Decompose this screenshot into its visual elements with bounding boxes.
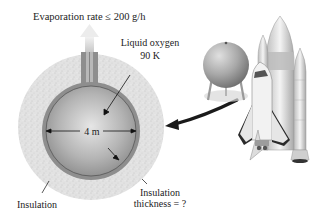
insulation-thickness-leader <box>142 179 147 184</box>
diameter-label: 4 m <box>80 126 104 137</box>
space-shuttle-illustration <box>238 16 309 163</box>
shuttle-to-tank-arrow <box>165 100 237 130</box>
liquid-oxygen-label: Liquid oxygen <box>120 37 180 48</box>
insulation-thickness-label-line1: Insulation <box>130 187 190 198</box>
temperature-label: 90 K <box>130 50 170 61</box>
insulation-label: Insulation <box>17 199 57 210</box>
insulation-thickness-label-line2: thickness = ? <box>130 198 190 209</box>
evaporation-arrow <box>80 24 99 52</box>
oxygen-tank-illustration <box>203 42 249 102</box>
evaporation-rate-label: Evaporation rate ≤ 200 g/h <box>33 11 145 22</box>
